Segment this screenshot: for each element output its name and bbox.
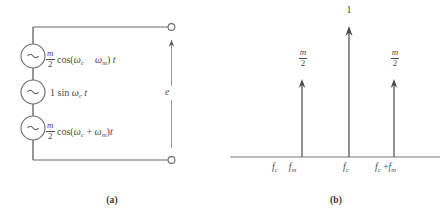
source-1-expression: m 2 cos(ωc−ωm) t: [46, 49, 116, 70]
tick-label-lower-sideband: fc−fm: [272, 162, 296, 173]
source-1-function: cos: [57, 54, 70, 65]
source-1-omega-carrier: ω: [74, 54, 81, 65]
source-3-function: cos: [57, 126, 70, 137]
source-1-close-paren: ): [107, 54, 110, 65]
panel-spectrum-plot: m 2 1 m 2 fc−fm fc fc +fm (b): [224, 0, 448, 213]
source-1-time-var: t: [113, 54, 116, 65]
tick-label-carrier: fc: [343, 162, 349, 173]
source-3-carrier-subscript: c: [81, 131, 84, 138]
terminal-voltage-label: e: [165, 87, 169, 97]
source-3-omega-carrier: ω: [74, 126, 81, 137]
amplitude-label-lower-sideband: m 2: [294, 48, 312, 69]
tick-label-upper-sideband: fc +fm: [375, 162, 396, 173]
source-2-carrier-subscript: c: [79, 92, 82, 99]
panel-a-caption: (a): [0, 195, 224, 205]
source-3-expression: m 2 cos(ωc + ωm)t: [46, 121, 113, 142]
figure-container: m 2 cos(ωc−ωm) t 1 sin ωc t m 2 cos(ωc +…: [0, 0, 448, 213]
source-3-omega-mod: ω: [95, 126, 102, 137]
amplitude-label-upper-sideband: m 2: [386, 48, 404, 69]
source-3-amplitude-fraction: m 2: [46, 121, 55, 142]
source-1-amplitude-fraction: m 2: [46, 49, 55, 70]
source-2-amplitude: 1: [50, 87, 55, 98]
source-1-omega-mod: ω: [95, 54, 102, 65]
panel-circuit-diagram: m 2 cos(ωc−ωm) t 1 sin ωc t m 2 cos(ωc +…: [0, 0, 224, 213]
source-2-omega-carrier: ω: [72, 87, 79, 98]
source-1-operator: −: [84, 55, 95, 65]
amplitude-label-carrier: 1: [341, 4, 357, 15]
source-2-time-var: t: [84, 87, 87, 98]
source-3-operator: +: [86, 126, 92, 137]
panel-b-caption: (b): [224, 195, 448, 205]
circuit-schematic-svg: [0, 0, 224, 190]
terminal-bottom: [168, 157, 175, 164]
source-3-time-var: t: [110, 126, 113, 137]
source-2-function: sin: [58, 87, 70, 98]
terminal-top: [168, 24, 175, 31]
source-2-expression: 1 sin ωc t: [50, 88, 87, 99]
spectrum-svg: [224, 0, 448, 180]
